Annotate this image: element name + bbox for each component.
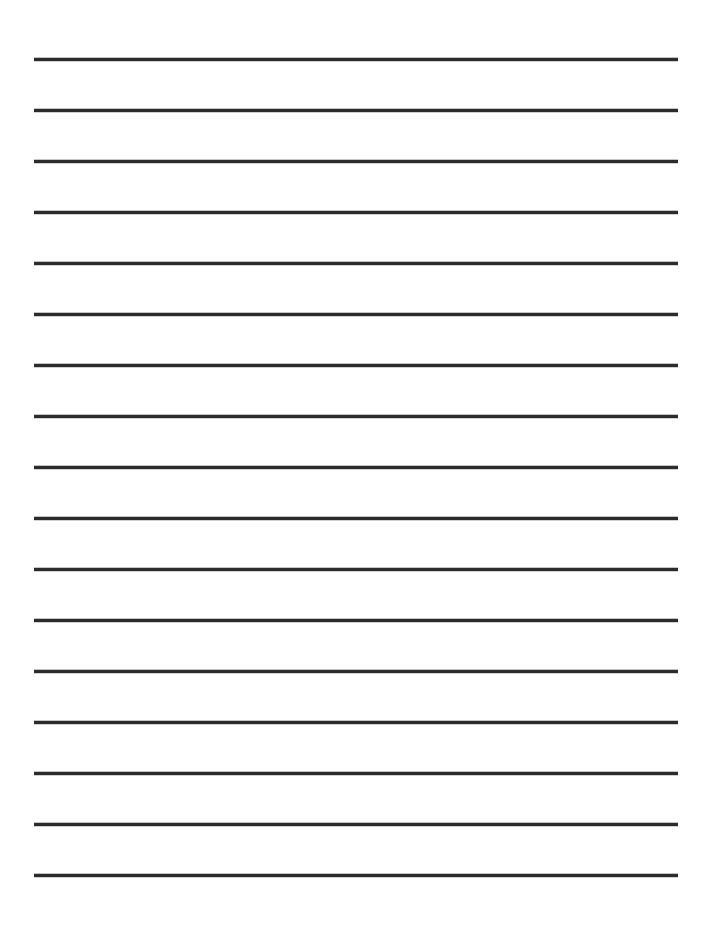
ruled-line-1 xyxy=(34,58,678,61)
ruled-line-6 xyxy=(34,313,678,316)
ruled-line-16 xyxy=(34,823,678,826)
ruled-line-10 xyxy=(34,517,678,520)
ruled-line-2 xyxy=(34,109,678,112)
lined-paper-page xyxy=(0,0,712,930)
ruled-line-13 xyxy=(34,670,678,673)
ruled-line-5 xyxy=(34,262,678,265)
ruled-line-4 xyxy=(34,211,678,214)
ruled-line-14 xyxy=(34,721,678,724)
ruled-line-8 xyxy=(34,415,678,418)
ruled-line-17 xyxy=(34,874,678,877)
ruled-line-12 xyxy=(34,619,678,622)
ruled-line-15 xyxy=(34,772,678,775)
ruled-line-9 xyxy=(34,466,678,469)
ruled-line-11 xyxy=(34,568,678,571)
ruled-line-3 xyxy=(34,160,678,163)
ruled-line-7 xyxy=(34,364,678,367)
